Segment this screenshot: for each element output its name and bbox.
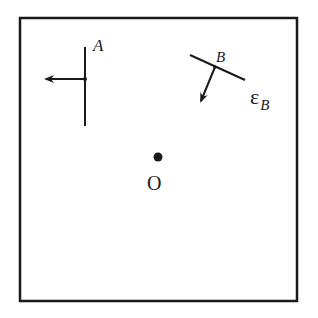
point-b <box>213 65 217 69</box>
surface-element-a: A <box>46 36 104 126</box>
surface-element-b: B εB <box>190 49 269 113</box>
label-a: A <box>92 36 104 55</box>
label-origin: O <box>147 172 161 194</box>
label-epsilon-b: εB <box>250 84 269 113</box>
label-b: B <box>216 49 225 65</box>
point-a <box>83 77 87 81</box>
origin: O <box>147 153 163 195</box>
normal-arrow-b <box>201 67 215 101</box>
origin-point <box>154 153 163 162</box>
diagram-canvas: A B εB O <box>0 0 318 318</box>
